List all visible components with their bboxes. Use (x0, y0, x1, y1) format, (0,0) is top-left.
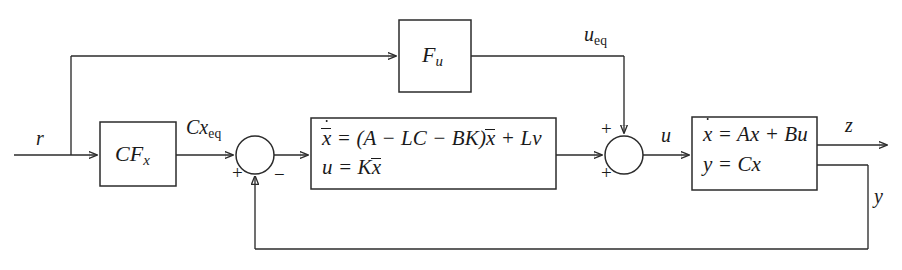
sign-left-sum-plus: + (232, 163, 243, 182)
equation-plant-state: x = Ax + Bu (703, 124, 808, 145)
signal-label-z: z (845, 115, 853, 135)
block-label-cfx: CFx (115, 143, 150, 168)
equation-plant-output: y = Cx (703, 154, 761, 175)
sign-left-sum-minus: − (274, 165, 285, 184)
sign-right-sum-plus-top: + (601, 119, 612, 138)
sign-right-sum-plus-left: + (601, 163, 612, 182)
signal-label-cx-eq: Cxeq (186, 117, 221, 140)
signal-label-y: y (874, 186, 883, 206)
block-label-fu: Fu (422, 44, 443, 69)
block-diagram: Fu CFx x = (A − LC − BK)x + Lv u = Kx x … (0, 0, 902, 270)
equation-observer-control: u = Kx (322, 156, 381, 178)
equation-observer-state: x = (A − LC − BK)x + Lv (322, 126, 542, 149)
signal-label-u: u (661, 125, 671, 145)
signal-label-u-eq: ueq (584, 24, 607, 47)
signal-label-r: r (36, 128, 44, 148)
